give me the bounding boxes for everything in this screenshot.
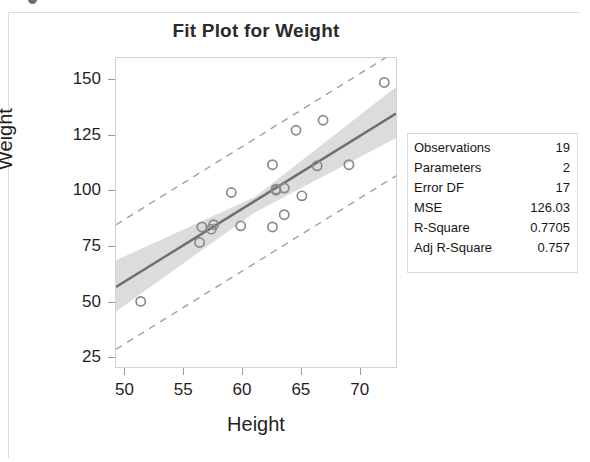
- y-tick-label: 125: [41, 125, 101, 145]
- y-tick-mark: [108, 190, 115, 191]
- data-point: [291, 126, 300, 135]
- stat-row: Adj R-Square0.757: [414, 238, 570, 258]
- x-tick-mark: [242, 368, 243, 375]
- plot-title: Fit Plot for Weight: [115, 20, 397, 42]
- data-point: [280, 210, 289, 219]
- fit-summary-box: Observations19Parameters2Error DF17MSE12…: [407, 133, 578, 273]
- data-point: [236, 221, 245, 230]
- y-tick-mark: [108, 246, 115, 247]
- y-tick-mark: [108, 79, 115, 80]
- stat-value: 0.757: [517, 238, 570, 258]
- stat-label: Error DF: [414, 178, 517, 198]
- x-tick-label: 70: [338, 380, 382, 400]
- fit-plot-figure: Fit Plot for Weight Weight Height 255075…: [0, 0, 590, 462]
- stat-label: R-Square: [414, 218, 517, 238]
- plot-area: [115, 57, 397, 368]
- scatter-plot-svg: [116, 58, 396, 367]
- x-tick-mark: [183, 368, 184, 375]
- stat-row: MSE126.03: [414, 198, 570, 218]
- stat-row: Observations19: [414, 138, 570, 158]
- data-point: [318, 116, 327, 125]
- stat-label: Parameters: [414, 158, 517, 178]
- stat-label: Observations: [414, 138, 517, 158]
- stat-label: Adj R-Square: [414, 238, 517, 258]
- stat-value: 2: [517, 158, 570, 178]
- data-point: [268, 222, 277, 231]
- stat-row: Error DF17: [414, 178, 570, 198]
- data-point: [297, 191, 306, 200]
- y-tick-mark: [108, 302, 115, 303]
- stat-value: 19: [517, 138, 570, 158]
- page-top-sliver: [0, 0, 590, 11]
- stat-value: 17: [517, 178, 570, 198]
- x-tick-mark: [124, 368, 125, 375]
- x-tick-mark: [360, 368, 361, 375]
- data-point: [227, 188, 236, 197]
- cut-off-bullet-icon: [28, 0, 37, 4]
- fit-line-shape: [116, 114, 396, 287]
- regression-fit-line: [116, 114, 396, 287]
- x-tick-label: 60: [220, 380, 264, 400]
- y-axis-label: Weight: [0, 108, 17, 170]
- data-point: [380, 78, 389, 87]
- x-tick-label: 55: [161, 380, 205, 400]
- y-tick-label: 100: [41, 180, 101, 200]
- stat-value: 0.7705: [517, 218, 570, 238]
- y-tick-mark: [108, 135, 115, 136]
- stat-value: 126.03: [517, 198, 570, 218]
- data-point: [136, 297, 145, 306]
- stat-row: Parameters2: [414, 158, 570, 178]
- y-tick-label: 150: [41, 69, 101, 89]
- fit-summary-table: Observations19Parameters2Error DF17MSE12…: [414, 138, 570, 258]
- y-tick-mark: [108, 357, 115, 358]
- stat-row: R-Square0.7705: [414, 218, 570, 238]
- x-tick-label: 50: [102, 380, 146, 400]
- x-tick-label: 65: [279, 380, 323, 400]
- y-tick-label: 50: [41, 292, 101, 312]
- y-tick-label: 75: [41, 236, 101, 256]
- data-point: [268, 160, 277, 169]
- x-tick-mark: [301, 368, 302, 375]
- y-tick-label: 25: [41, 347, 101, 367]
- x-axis-label: Height: [115, 413, 397, 436]
- stat-label: MSE: [414, 198, 517, 218]
